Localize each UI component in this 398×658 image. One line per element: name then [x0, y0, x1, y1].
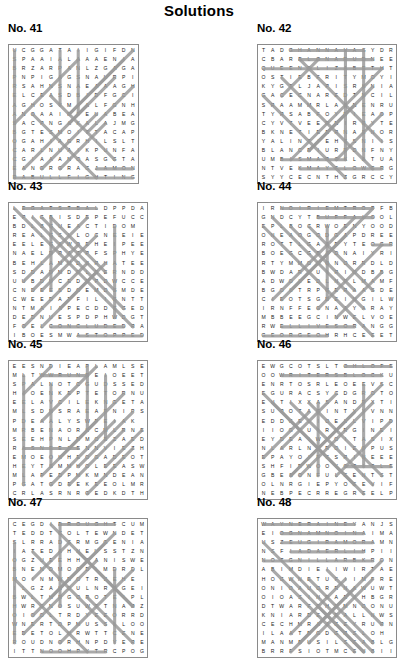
- grid-cell: N: [277, 480, 286, 489]
- grid-cell: O: [359, 204, 368, 213]
- grid-cell: Z: [341, 173, 350, 182]
- grid-cell: R: [377, 249, 386, 258]
- grid-cell: G: [304, 249, 313, 258]
- grid-cell: A: [101, 362, 110, 371]
- grid-cell: E: [304, 64, 313, 73]
- grid-cell: V: [295, 119, 304, 128]
- grid-cell: H: [295, 46, 304, 55]
- grid-cell: L: [83, 268, 92, 277]
- letter-grid[interactable]: LEGATSTBALDPPDAEPIGBISDEPEFUCCBDLBGUEACT…: [8, 202, 148, 342]
- grid-cell: P: [386, 110, 395, 119]
- grid-cell: E: [359, 101, 368, 110]
- grid-cell: W: [268, 322, 277, 331]
- grid-cell: X: [304, 398, 313, 407]
- grid-cell: N: [46, 119, 55, 128]
- grid-cell: O: [259, 231, 268, 240]
- grid-cell: T: [304, 213, 313, 222]
- grid-cell: T: [28, 647, 37, 656]
- grid-cell: C: [368, 173, 377, 182]
- grid-cell: K: [83, 471, 92, 480]
- grid-cell: A: [74, 362, 83, 371]
- grid-cell: E: [28, 417, 37, 426]
- grid-cell: S: [304, 295, 313, 304]
- grid-cell: A: [128, 55, 137, 64]
- grid-cell: Y: [286, 453, 295, 462]
- grid-cell: R: [19, 64, 28, 73]
- grid-cell: O: [341, 480, 350, 489]
- grid-cell: P: [65, 471, 74, 480]
- letter-grid[interactable]: WAYNERAINEYANJSEIOGNAMNOINAIMAUSZEUGIRAM…: [257, 518, 397, 658]
- grid-cell: E: [332, 91, 341, 100]
- letter-grid[interactable]: EWGCOTSLTOHLOFEOOWRITERSBLOCKUENRTOSRLEO…: [257, 360, 397, 500]
- grid-cell: E: [386, 286, 395, 295]
- grid-cell: P: [19, 213, 28, 222]
- grid-cell: L: [19, 371, 28, 380]
- grid-cell: A: [74, 331, 83, 340]
- letter-grid[interactable]: CEGDIDROUGHTCUMTEDDTCOLTEWNDETSLRRADSRMG…: [8, 518, 148, 658]
- grid-cell: U: [65, 371, 74, 380]
- grid-cell: N: [341, 128, 350, 137]
- grid-cell: I: [110, 240, 119, 249]
- grid-cell: S: [10, 435, 19, 444]
- grid-cell: P: [74, 313, 83, 322]
- grid-cell: M: [295, 101, 304, 110]
- grid-cell: T: [295, 407, 304, 416]
- grid-cell: [137, 417, 146, 426]
- grid-cell: N: [46, 602, 55, 611]
- grid-cell: O: [10, 137, 19, 146]
- grid-cell: L: [37, 249, 46, 258]
- grid-cell: G: [83, 173, 92, 182]
- grid-cell: A: [46, 259, 55, 268]
- grid-cell: A: [268, 520, 277, 529]
- grid-cell: E: [28, 322, 37, 331]
- letter-grid[interactable]: TADGHANNAVASYDRCBARELONARUDNEEQUEENELIZA…: [257, 44, 397, 184]
- grid-cell: A: [341, 101, 350, 110]
- grid-cell: O: [295, 471, 304, 480]
- grid-cell: E: [128, 259, 137, 268]
- grid-cell: I: [368, 137, 377, 146]
- grid-cell: I: [314, 204, 323, 213]
- grid-cell: N: [37, 647, 46, 656]
- grid-cell: B: [350, 556, 359, 565]
- grid-cell: R: [332, 240, 341, 249]
- grid-cell: S: [10, 55, 19, 64]
- grid-cell: I: [19, 611, 28, 620]
- letter-grid[interactable]: EESNDIEAPLAMLSEMLTWWRUNREIOEETSPALNOTCGU…: [8, 360, 148, 500]
- grid-cell: M: [55, 565, 64, 574]
- letter-grid[interactable]: IRNOIRIEMTROPFBGNDCYTBUFFALOOLEPLBOCRWOE…: [257, 202, 397, 342]
- grid-cell: U: [377, 155, 386, 164]
- grid-cell: R: [128, 611, 137, 620]
- puzzle-47: No. 47CEGDIDROUGHTCUMTEDDTCOLTEWNDETSLRR…: [0, 494, 199, 658]
- grid-cell: I: [10, 647, 19, 656]
- grid-cell: D: [55, 471, 64, 480]
- grid-cell: S: [386, 137, 395, 146]
- grid-cell: T: [368, 155, 377, 164]
- grid-cell: Z: [128, 547, 137, 556]
- grid-cell: L: [28, 398, 37, 407]
- grid-cell: E: [304, 146, 313, 155]
- grid-cell: T: [19, 647, 28, 656]
- grid-cell: T: [83, 389, 92, 398]
- grid-cell: N: [323, 55, 332, 64]
- grid-cell: G: [119, 82, 128, 91]
- grid-cell: D: [46, 295, 55, 304]
- grid-cell: G: [314, 295, 323, 304]
- puzzle-42: No. 42TADGHANNAVASYDRCBARELONARUDNEEQUEE…: [199, 20, 398, 178]
- grid-cell: O: [65, 426, 74, 435]
- grid-cell: O: [46, 629, 55, 638]
- grid-cell: E: [350, 444, 359, 453]
- grid-cell: R: [341, 55, 350, 64]
- grid-cell: O: [323, 259, 332, 268]
- letter-grid[interactable]: UCGGATAIIGIFDNSPAAIALAAAENIABRZARPANLZGA…: [8, 44, 139, 184]
- grid-cell: E: [119, 371, 128, 380]
- grid-cell: N: [110, 529, 119, 538]
- grid-cell: G: [128, 119, 137, 128]
- grid-cell: I: [83, 295, 92, 304]
- grid-cell: W: [359, 164, 368, 173]
- grid-cell: G: [92, 453, 101, 462]
- grid-cell: V: [46, 398, 55, 407]
- grid-cell: R: [314, 222, 323, 231]
- grid-cell: I: [137, 584, 146, 593]
- grid-cell: A: [314, 398, 323, 407]
- grid-cell: R: [55, 249, 64, 258]
